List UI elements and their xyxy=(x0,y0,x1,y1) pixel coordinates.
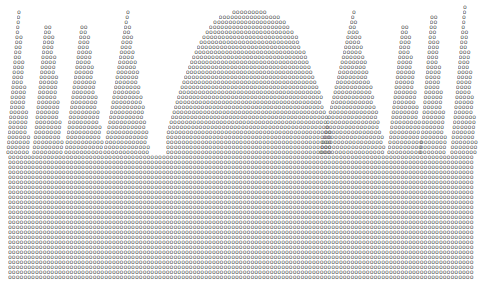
art-row xyxy=(0,280,485,285)
character-art-canvas: Typewriter character-art silhouette of s… xyxy=(0,0,485,285)
